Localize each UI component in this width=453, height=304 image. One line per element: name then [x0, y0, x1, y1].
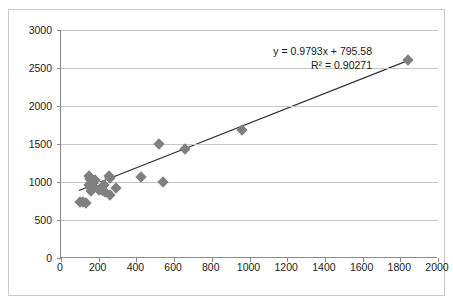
x-axis-tick-label: 1600: [350, 262, 373, 273]
gridline: [61, 30, 438, 31]
x-axis-tick-label: 2000: [425, 262, 448, 273]
y-axis-tick-label: 0: [46, 253, 52, 263]
x-axis-tick-label: 600: [164, 262, 182, 273]
y-axis-tick-label: 1000: [29, 177, 52, 187]
trendline-equation: y = 0.9793x + 795.58: [232, 44, 372, 58]
y-axis-tick-label: 500: [34, 215, 52, 225]
data-point-marker: [154, 138, 165, 149]
y-axis-labels: 050010001500200025003000: [0, 30, 52, 258]
y-tick-mark: [57, 220, 61, 221]
trendline-annotation: y = 0.9793x + 795.58 R² = 0.90271: [232, 44, 372, 72]
x-axis-tick-label: 200: [89, 262, 107, 273]
trendline-r-squared: R² = 0.90271: [232, 58, 372, 72]
chart-container: 050010001500200025003000 020040060080010…: [0, 0, 453, 304]
y-tick-mark: [57, 68, 61, 69]
x-axis-tick-label: 1800: [388, 262, 411, 273]
data-point-marker: [402, 55, 413, 66]
x-axis-tick-label: 1400: [312, 262, 335, 273]
y-axis-tick-label: 2500: [29, 63, 52, 73]
data-point-marker: [237, 124, 248, 135]
gridline: [61, 106, 438, 107]
y-tick-mark: [57, 144, 61, 145]
x-axis-tick-label: 1200: [275, 262, 298, 273]
x-axis-labels: 0200400600800100012001400160018002000: [60, 262, 437, 278]
gridline: [61, 144, 438, 145]
data-point-marker: [180, 144, 191, 155]
x-axis-tick-label: 400: [127, 262, 145, 273]
y-tick-mark: [57, 30, 61, 31]
y-tick-mark: [57, 182, 61, 183]
gridline: [61, 220, 438, 221]
y-axis-tick-label: 2000: [29, 101, 52, 111]
gridline: [61, 182, 438, 183]
y-axis-tick-label: 1500: [29, 139, 52, 149]
x-axis-tick-label: 0: [57, 262, 63, 273]
y-axis-tick-label: 3000: [29, 25, 52, 35]
x-axis-tick-label: 1000: [237, 262, 260, 273]
x-axis-tick-label: 800: [202, 262, 220, 273]
data-point-marker: [157, 177, 168, 188]
y-tick-mark: [57, 106, 61, 107]
